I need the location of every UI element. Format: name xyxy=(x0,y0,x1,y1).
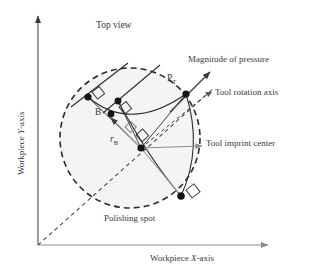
tool-rotation-axis-label: Tool rotation axis xyxy=(215,87,278,97)
polishing-spot-diagram: Top view Magnitude of pressure Tool rota… xyxy=(0,0,311,274)
point-pt-label: PT xyxy=(167,73,176,85)
point-pt-subscript: T xyxy=(172,78,176,85)
x-axis-label: Workpiece X-axis xyxy=(150,253,214,263)
x-axis-label-prefix: Workpiece xyxy=(150,253,191,263)
polishing-spot-label: Polishing spot xyxy=(104,213,155,223)
point-b-label: B xyxy=(95,107,101,117)
radius-rb-label: rB xyxy=(110,134,118,146)
x-axis-label-suffix: -axis xyxy=(197,253,215,263)
y-axis-label-prefix: Workpiece xyxy=(16,134,26,175)
y-axis-label: Workpiece Y-axis xyxy=(16,111,26,175)
y-axis-label-italic: Y xyxy=(16,129,26,134)
node-center xyxy=(137,144,144,151)
node-b xyxy=(108,111,115,118)
top-view-title: Top view xyxy=(96,20,131,30)
y-axis-label-suffix: -axis xyxy=(16,111,26,129)
node-top-left xyxy=(84,93,91,100)
magnitude-of-pressure-label: Magnitude of pressure xyxy=(188,54,269,64)
node-mid-upper xyxy=(115,98,122,105)
diagram-canvas xyxy=(0,0,311,274)
tool-imprint-center-label: Tool imprint center xyxy=(206,138,275,148)
right-angle-marker-bottom-right xyxy=(186,184,200,198)
node-pt xyxy=(182,90,189,97)
node-bottom-right xyxy=(177,192,185,200)
radius-rb-subscript: B xyxy=(114,139,118,146)
